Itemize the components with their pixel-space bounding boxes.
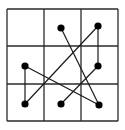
- connection-line: [61, 66, 98, 104]
- dot-r2c1: [21, 62, 28, 69]
- dot-r3c3: [95, 101, 102, 108]
- connection-lines: [25, 26, 99, 105]
- dot-r1c3: [94, 22, 101, 29]
- connection-line: [25, 66, 99, 105]
- dot-r1c2: [57, 24, 64, 31]
- connection-line: [61, 28, 99, 105]
- dot-r3c2: [57, 100, 64, 107]
- dot-r3c1: [21, 100, 28, 107]
- dot-r2c3: [94, 62, 101, 69]
- grid-dot-diagram: [0, 0, 125, 130]
- connection-line: [25, 26, 98, 104]
